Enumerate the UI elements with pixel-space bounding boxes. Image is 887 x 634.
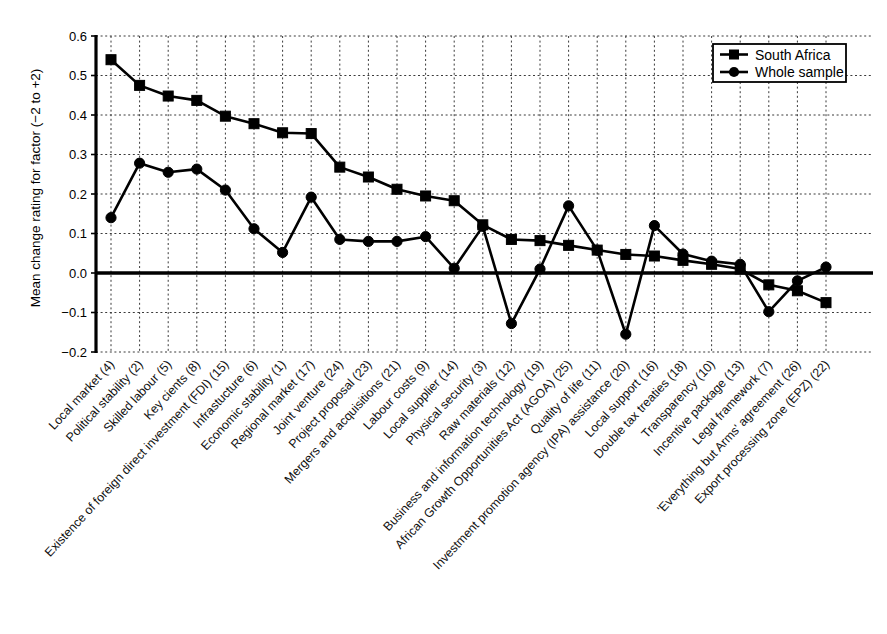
data-point-marker (192, 95, 202, 105)
series-line (111, 60, 826, 303)
legend-entry-label: South Africa (755, 47, 831, 63)
legend-marker-circle (729, 67, 739, 77)
data-point-marker (592, 245, 602, 255)
data-point-marker (764, 307, 774, 317)
grid-layer (96, 36, 873, 352)
y-axis-title: Mean change rating for factor (−2 to +2) (28, 69, 43, 308)
y-tick-label: 0.5 (69, 68, 87, 83)
y-tick-label: 0.6 (69, 29, 87, 44)
y-tick-label: −0.2 (61, 345, 87, 360)
data-point-marker (421, 232, 431, 242)
data-point-marker (249, 224, 259, 234)
data-point-marker (278, 128, 288, 138)
chart-figure: 0.60.50.40.30.20.10.0−0.1−0.2 Local mark… (0, 0, 887, 634)
data-point-marker (707, 256, 717, 266)
data-point-marker (564, 201, 574, 211)
chart-legend: South AfricaWhole sample (713, 44, 846, 82)
data-point-marker (306, 192, 316, 202)
legend-entry-label: Whole sample (755, 64, 844, 80)
data-point-marker (163, 167, 173, 177)
data-point-marker (106, 213, 116, 223)
data-point-marker (564, 240, 574, 250)
data-point-marker (621, 329, 631, 339)
series-layer (106, 55, 831, 340)
data-point-marker (135, 158, 145, 168)
data-point-marker (363, 236, 373, 246)
line-chart: 0.60.50.40.30.20.10.0−0.1−0.2 Local mark… (0, 0, 887, 634)
data-point-marker (106, 55, 116, 65)
data-point-marker (678, 249, 688, 259)
data-point-marker (649, 251, 659, 261)
data-point-marker (220, 111, 230, 121)
data-point-marker (392, 236, 402, 246)
data-point-marker (792, 276, 802, 286)
data-point-marker (421, 191, 431, 201)
y-tick-labels: 0.60.50.40.30.20.10.0−0.1−0.2 (61, 29, 96, 360)
data-point-marker (478, 221, 488, 231)
data-point-marker (135, 80, 145, 90)
data-point-marker (535, 236, 545, 246)
data-point-marker (821, 298, 831, 308)
data-point-marker (278, 247, 288, 257)
data-point-marker (163, 91, 173, 101)
data-point-marker (621, 249, 631, 259)
data-point-marker (506, 318, 516, 328)
y-tick-label: 0.2 (69, 187, 87, 202)
data-point-marker (821, 262, 831, 272)
data-point-marker (363, 172, 373, 182)
y-tick-label: −0.1 (61, 305, 87, 320)
data-point-marker (792, 286, 802, 296)
data-point-marker (506, 234, 516, 244)
series-line (111, 163, 826, 334)
data-point-marker (764, 280, 774, 290)
data-point-marker (535, 264, 545, 274)
data-point-marker (220, 185, 230, 195)
data-point-marker (735, 259, 745, 269)
data-point-marker (335, 162, 345, 172)
y-tick-label: 0.0 (69, 266, 87, 281)
y-tick-label: 0.1 (69, 226, 87, 241)
data-point-marker (249, 119, 259, 129)
data-point-marker (392, 184, 402, 194)
data-point-marker (335, 234, 345, 244)
data-point-marker (306, 129, 316, 139)
y-tick-label: 0.3 (69, 147, 87, 162)
data-point-marker (449, 263, 459, 273)
data-point-marker (449, 196, 459, 206)
data-point-marker (649, 221, 659, 231)
x-category-labels: Local market (4)Political stability (2)S… (42, 357, 832, 572)
y-axis-title-text: Mean change rating for factor (−2 to +2) (28, 69, 43, 308)
y-tick-label: 0.4 (69, 108, 87, 123)
legend-marker-square (729, 50, 739, 60)
data-point-marker (192, 164, 202, 174)
